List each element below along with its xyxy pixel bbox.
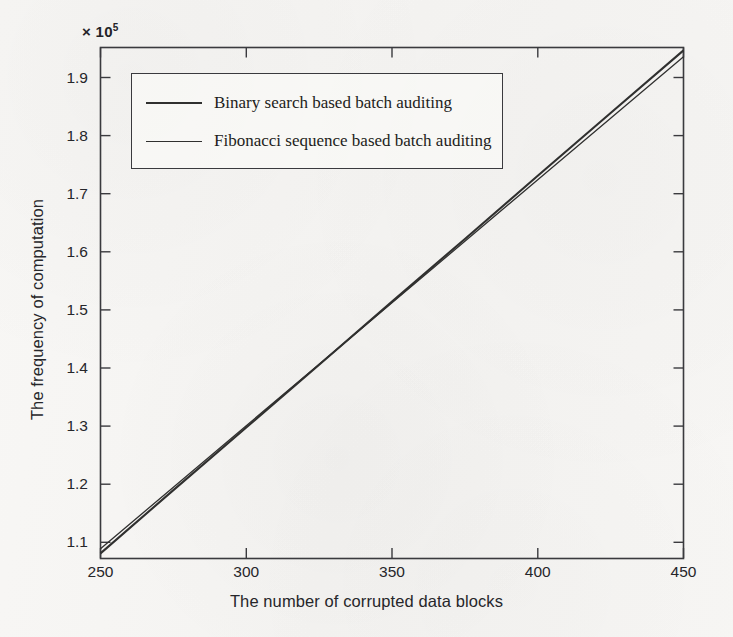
- y-tick-label: 1.3: [42, 417, 88, 435]
- x-tick-label: 300: [211, 563, 281, 581]
- y-tick-label: 1.7: [42, 185, 88, 203]
- x-tick-label: 250: [66, 563, 136, 581]
- chart-figure: × 105: [0, 0, 733, 637]
- figure-page: × 105: [0, 0, 733, 637]
- y-tick-label: 1.2: [42, 475, 88, 493]
- y-axis-label: The frequency of computation: [28, 165, 47, 455]
- x-axis-label: The number of corrupted data blocks: [0, 592, 733, 611]
- x-tick-label: 350: [357, 563, 427, 581]
- y-tick-label: 1.4: [42, 359, 88, 377]
- y-tick-label: 1.5: [42, 301, 88, 319]
- legend-label: Binary search based batch auditing: [214, 93, 452, 113]
- x-tick-label: 450: [649, 563, 719, 581]
- legend-label: Fibonacci sequence based batch auditing: [214, 131, 492, 151]
- y-tick-label: 1.6: [42, 243, 88, 261]
- legend-line-swatch-fibonacci: [146, 141, 202, 142]
- y-tick-label: 1.9: [42, 69, 88, 87]
- legend-line-swatch-binary-search: [146, 102, 202, 104]
- legend-item: Fibonacci sequence based batch auditing: [132, 126, 502, 156]
- legend: Binary search based batch auditing Fibon…: [131, 73, 503, 169]
- x-tick-label: 400: [503, 563, 573, 581]
- y-tick-label: 1.8: [42, 127, 88, 145]
- legend-item: Binary search based batch auditing: [132, 88, 502, 118]
- y-tick-label: 1.1: [42, 533, 88, 551]
